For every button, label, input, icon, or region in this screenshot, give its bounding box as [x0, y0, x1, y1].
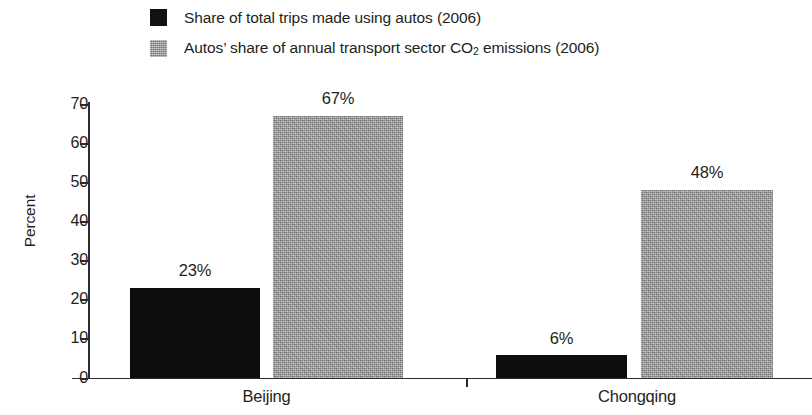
bar-value-chongqing-emissions: 48%: [641, 164, 773, 181]
bar-chongqing-emissions[interactable]: [641, 190, 773, 378]
y-axis-line: [88, 102, 90, 379]
y-tick-mark-10: [80, 338, 88, 340]
bar-value-beijing-trips: 23%: [130, 262, 260, 279]
bar-value-chongqing-trips: 6%: [496, 330, 627, 347]
bar-beijing-emissions[interactable]: [273, 116, 403, 378]
bar-value-beijing-emissions: 67%: [273, 90, 403, 107]
x-axis-group-tick: [466, 378, 468, 387]
bar-chart: Percent 70 60 50 40 30 20 10 0 23% 67%: [0, 0, 812, 415]
y-tick-mark-0: [80, 378, 88, 380]
y-tick-mark-60: [80, 143, 88, 145]
x-axis-category-chongqing: Chongqing: [562, 388, 712, 405]
y-tick-mark-40: [80, 221, 88, 223]
y-tick-mark-20: [80, 299, 88, 301]
y-tick-mark-50: [80, 182, 88, 184]
bar-chongqing-trips[interactable]: [496, 355, 627, 378]
y-axis-title: Percent: [21, 173, 39, 269]
bar-beijing-trips[interactable]: [130, 288, 260, 378]
x-axis-category-beijing: Beijing: [195, 388, 338, 405]
y-tick-mark-70: [80, 104, 88, 106]
y-tick-mark-30: [80, 260, 88, 262]
